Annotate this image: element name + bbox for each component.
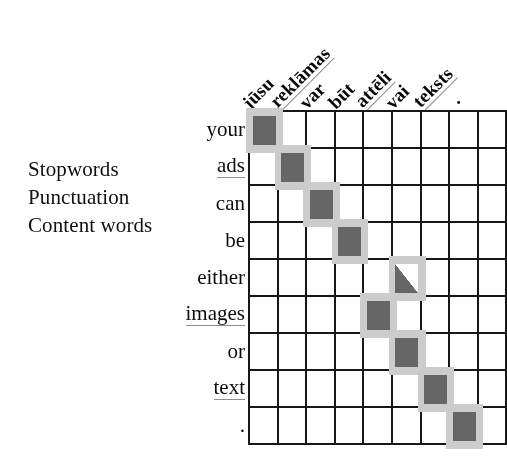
matrix-cell: [450, 149, 479, 186]
matrix-cell: [450, 297, 479, 334]
matrix-cell: [307, 149, 336, 186]
row-label-either: either: [150, 258, 246, 295]
row-label-period: .: [150, 406, 246, 443]
matrix-cell: [279, 112, 308, 149]
matrix-cell: [279, 334, 308, 371]
matrix-cell: [422, 297, 451, 334]
column-header-period: .: [456, 88, 461, 107]
matrix-cell: [364, 149, 393, 186]
matrix-cell: [307, 408, 336, 445]
legend-text-content-words: Content words: [28, 213, 152, 237]
matrix-cell: [250, 408, 279, 445]
matrix-cell-aligned: [307, 186, 336, 223]
row-label-be: be: [150, 221, 246, 258]
row-label-text: images: [186, 301, 245, 326]
matrix-cell: [307, 260, 336, 297]
matrix-cell-aligned: [393, 334, 422, 371]
matrix-cell: [479, 112, 507, 149]
matrix-cell: [422, 334, 451, 371]
matrix-cell: [250, 371, 279, 408]
matrix-cell: [450, 334, 479, 371]
matrix-cell: [393, 112, 422, 149]
matrix-cell: [279, 260, 308, 297]
row-label-your: your: [150, 110, 246, 147]
matrix-row: [250, 186, 507, 223]
matrix-cell: [479, 371, 507, 408]
column-header-teksts: teksts: [409, 63, 458, 112]
matrix-cell: [479, 149, 507, 186]
matrix-cell: [393, 149, 422, 186]
matrix-cell: [479, 297, 507, 334]
matrix-cell: [336, 112, 365, 149]
matrix-cell: [450, 223, 479, 260]
matrix-row: [250, 334, 507, 371]
alignment-matrix-grid: [248, 110, 507, 445]
matrix-cell: [450, 186, 479, 223]
row-label-text: either: [197, 265, 245, 289]
matrix-cell: [479, 408, 507, 445]
matrix-cell: [336, 186, 365, 223]
matrix-cell: [393, 297, 422, 334]
row-label-images: images: [150, 295, 246, 332]
matrix-cell: [422, 149, 451, 186]
matrix-cell: [279, 223, 308, 260]
matrix-cell: [307, 334, 336, 371]
row-label-ads: ads: [150, 147, 246, 184]
matrix-cell: [279, 408, 308, 445]
row-label-text: your: [207, 117, 246, 141]
matrix-row: [250, 408, 507, 445]
matrix-cell: [250, 223, 279, 260]
matrix-cell: [422, 223, 451, 260]
matrix-cell: [450, 371, 479, 408]
matrix-row: [250, 149, 507, 186]
matrix-cell: [479, 223, 507, 260]
matrix-cell: [364, 186, 393, 223]
row-label-text: .: [240, 413, 245, 437]
matrix-cell: [279, 371, 308, 408]
matrix-cell: [422, 186, 451, 223]
row-label-text: text: [214, 375, 246, 400]
matrix-cell: [364, 112, 393, 149]
matrix-cell-aligned: [450, 408, 479, 445]
matrix-row: [250, 297, 507, 334]
matrix-cell: [393, 408, 422, 445]
row-label-can: can: [150, 184, 246, 221]
matrix-cell: [479, 186, 507, 223]
row-label-text: can: [216, 191, 245, 215]
matrix-cell: [307, 297, 336, 334]
matrix-cell: [307, 112, 336, 149]
matrix-row: [250, 112, 507, 149]
matrix-row: [250, 371, 507, 408]
matrix-cell: [422, 260, 451, 297]
matrix-cell: [250, 260, 279, 297]
matrix-row: [250, 260, 507, 297]
matrix-cell-aligned: [336, 223, 365, 260]
row-label-or: or: [150, 332, 246, 369]
matrix-cell: [336, 334, 365, 371]
matrix-cell: [422, 112, 451, 149]
matrix-cell-aligned: [250, 112, 279, 149]
legend-text-punctuation: Punctuation: [28, 185, 129, 209]
matrix-cell-aligned: [422, 371, 451, 408]
matrix-cell: [393, 223, 422, 260]
matrix-cell: [393, 186, 422, 223]
row-label-text: text: [150, 369, 246, 406]
row-label-text: be: [225, 228, 245, 252]
matrix-cell: [364, 408, 393, 445]
matrix-cell: [307, 371, 336, 408]
matrix-cell: [336, 371, 365, 408]
matrix-cell: [450, 260, 479, 297]
matrix-cell: [250, 334, 279, 371]
row-label-text: or: [228, 339, 246, 363]
legend-text-stopwords: Stopwords: [28, 157, 119, 181]
matrix-cell: [364, 371, 393, 408]
matrix-cell: [479, 260, 507, 297]
column-headers: jūsureklāmasvarbūtattēlivaiteksts.: [0, 0, 501, 115]
matrix-cell: [279, 297, 308, 334]
matrix-cell: [450, 112, 479, 149]
matrix-cell: [250, 186, 279, 223]
matrix-cell-aligned: [279, 149, 308, 186]
row-label-text: ads: [217, 153, 245, 178]
matrix-cell: [336, 260, 365, 297]
